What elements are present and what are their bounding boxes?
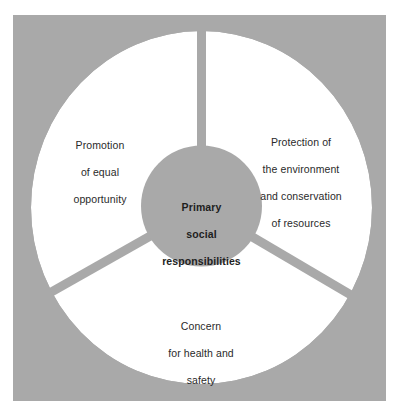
sector-label-health-safety: Concern for health and safety [145, 306, 257, 401]
sector-label-equal-opportunity: Promotion of equal opportunity [50, 125, 150, 220]
label-line: safety [145, 374, 257, 388]
label-line: Protection of [242, 136, 360, 150]
label-line: Concern [145, 320, 257, 334]
label-line: Promotion [50, 139, 150, 153]
center-line: Primary [146, 201, 257, 215]
label-line: of resources [242, 217, 360, 231]
center-line: social [146, 228, 257, 242]
center-line: responsibilities [146, 255, 257, 269]
center-label: Primary social responsibilities [146, 187, 257, 282]
label-line: opportunity [50, 193, 150, 207]
sector-label-environment: Protection of the environment and conser… [242, 122, 360, 244]
label-line: of equal [50, 166, 150, 180]
label-line: and conservation [242, 190, 360, 204]
label-line: the environment [242, 163, 360, 177]
label-line: for health and [145, 347, 257, 361]
spoke-top [197, 25, 206, 155]
